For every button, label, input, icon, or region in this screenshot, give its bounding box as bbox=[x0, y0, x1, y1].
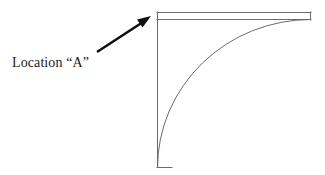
arrow-shaft bbox=[97, 22, 143, 52]
figure-canvas: Location “A” bbox=[0, 0, 325, 175]
leader-arrow bbox=[97, 16, 151, 52]
location-label: Location “A” bbox=[12, 54, 89, 72]
diagram-svg bbox=[0, 0, 325, 175]
quarter-arc bbox=[158, 20, 311, 168]
quarter-round-shape bbox=[157, 12, 311, 168]
